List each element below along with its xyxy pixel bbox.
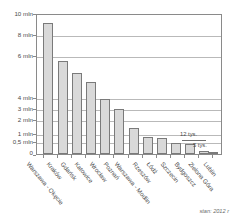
x-label-warszawa-okecie: Warszawa - Okęcie <box>25 161 64 206</box>
x-axis-labels: Warszawa - Okęcie Kraków Gdańsk Katowice… <box>0 0 234 218</box>
source-note: stan: 2012 r <box>199 208 229 214</box>
bar-chart: 10 mln 8 mln 6 mln 4 mln 3 mln 2 mln 1 m… <box>0 0 234 218</box>
